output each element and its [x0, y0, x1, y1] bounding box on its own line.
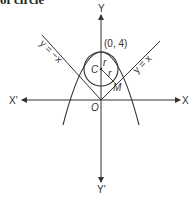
y-axis-label: Y [98, 3, 105, 14]
center-label: C [91, 64, 99, 75]
apex-label: (0, 4) [104, 38, 127, 49]
right-line-label: y = x [131, 52, 154, 75]
tangent-point-label: M [113, 82, 122, 93]
geometry-diagram: Y Y' X X' O (0, 4) C M r r y = x y = −x [0, 0, 192, 197]
radius-label-1: r [103, 57, 107, 68]
y-neg-axis-label: Y' [97, 184, 106, 195]
left-line-label: y = −x [38, 38, 65, 65]
origin-label: O [91, 102, 99, 113]
x-axis-label: X [182, 95, 189, 106]
x-neg-axis-label: X' [9, 95, 18, 106]
radius-label-2: r [108, 68, 112, 79]
